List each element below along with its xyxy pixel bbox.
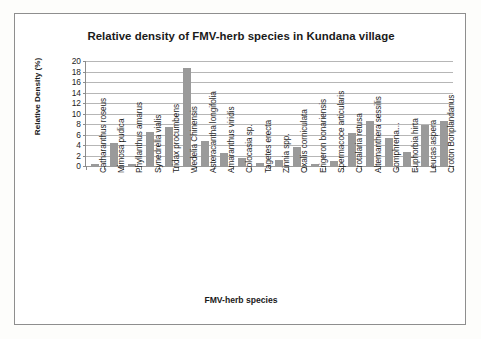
x-axis-label: Gomphrena… bbox=[392, 122, 401, 173]
y-tick-label-2: 2 bbox=[76, 151, 81, 161]
x-axis-label: Mimosa pudica bbox=[117, 119, 126, 173]
y-tick-label-10: 10 bbox=[72, 109, 81, 119]
y-tick-label-0: 0 bbox=[76, 161, 81, 171]
x-axis-label: Oxalis corniculata bbox=[300, 109, 309, 173]
x-axis-title: FMV-herb species bbox=[15, 295, 467, 305]
y-tick-label-16: 16 bbox=[72, 77, 81, 87]
x-axis-label: Crotalaria retusa bbox=[355, 113, 364, 173]
x-axis-label: Tagetes erecta bbox=[264, 120, 273, 173]
x-axis-label: Alternanthera sessilis bbox=[374, 96, 383, 173]
x-tick-mark bbox=[86, 166, 87, 170]
x-axis-label: Croton Bonplandanus bbox=[447, 95, 456, 173]
x-axis-label: Amaranthus viridis bbox=[227, 107, 236, 173]
x-axis-label: Spermacoce articularis bbox=[337, 91, 346, 173]
chart-title: Relative density of FMV-herb species in … bbox=[15, 30, 467, 42]
y-tick-label-14: 14 bbox=[72, 88, 81, 98]
x-axis-label: Euphorbia hirta bbox=[411, 118, 420, 173]
x-axis-label: Leucas aspera bbox=[429, 120, 438, 173]
y-tick-label-6: 6 bbox=[76, 130, 81, 140]
x-axis-label: Phyllanthus amarus bbox=[135, 102, 144, 173]
y-tick-label-12: 12 bbox=[72, 98, 81, 108]
x-axis-label: Erigeron bonariensis bbox=[319, 99, 328, 173]
y-tick-label-18: 18 bbox=[72, 67, 81, 77]
x-axis-label: Synedrella vialis bbox=[154, 115, 163, 173]
x-axis-label: Zinnia spp. bbox=[282, 133, 291, 173]
scanned-page: Relative density of FMV-herb species in … bbox=[0, 0, 481, 339]
chart-container: Relative density of FMV-herb species in … bbox=[14, 13, 466, 325]
x-axis-label: Colocasia sp. bbox=[245, 125, 254, 174]
x-axis-label: Tridax procumbens bbox=[172, 104, 181, 173]
y-tick-label-4: 4 bbox=[76, 140, 81, 150]
x-axis-label: Catharanthus roseus bbox=[99, 98, 108, 173]
y-tick-label-8: 8 bbox=[76, 119, 81, 129]
x-axis-label: Wedelia Chinensis bbox=[190, 106, 199, 173]
bar[interactable] bbox=[91, 164, 99, 166]
plot-area: 02468101214161820 Catharanthus roseusMim… bbox=[86, 61, 453, 166]
x-axis-label: Asteracantha longifolia bbox=[209, 91, 218, 173]
y-tick-label-20: 20 bbox=[72, 56, 81, 66]
bar[interactable] bbox=[403, 152, 411, 166]
y-axis-title: Relative Density (%) bbox=[33, 42, 42, 152]
